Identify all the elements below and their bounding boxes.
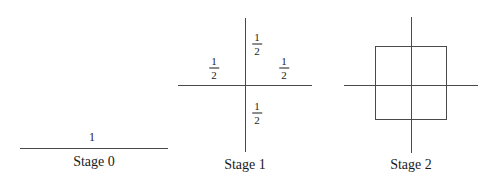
stage-1-label-down-numerator: 1 [252, 101, 262, 112]
stage-1-label-left-numerator: 1 [209, 56, 219, 67]
stage-0-segment [20, 148, 168, 149]
stage-1-label-up-denominator: 2 [252, 46, 262, 57]
stage-1-label-right-numerator: 1 [279, 56, 289, 67]
stage-2-square [375, 46, 447, 120]
stage-1-caption: Stage 1 [205, 157, 285, 173]
stage-1-label-down-denominator: 2 [252, 115, 262, 126]
stage-0-length-label: 1 [78, 131, 106, 144]
stage-1-label-right: 1 2 [279, 56, 289, 81]
figure-canvas: 1 Stage 0 1 2 1 2 1 2 1 2 Stage 1 [0, 0, 492, 183]
stage-2-caption: Stage 2 [371, 157, 451, 173]
stage-0-caption: Stage 0 [54, 154, 134, 170]
stage-1-label-down: 1 2 [252, 101, 262, 126]
stage-1-label-left: 1 2 [209, 56, 219, 81]
stage-1-label-left-denominator: 2 [209, 70, 219, 81]
stage-1-vertical-axis [245, 18, 246, 152]
stage-1-label-up: 1 2 [252, 32, 262, 57]
stage-1-label-right-denominator: 2 [279, 70, 289, 81]
stage-1-label-up-numerator: 1 [252, 32, 262, 43]
